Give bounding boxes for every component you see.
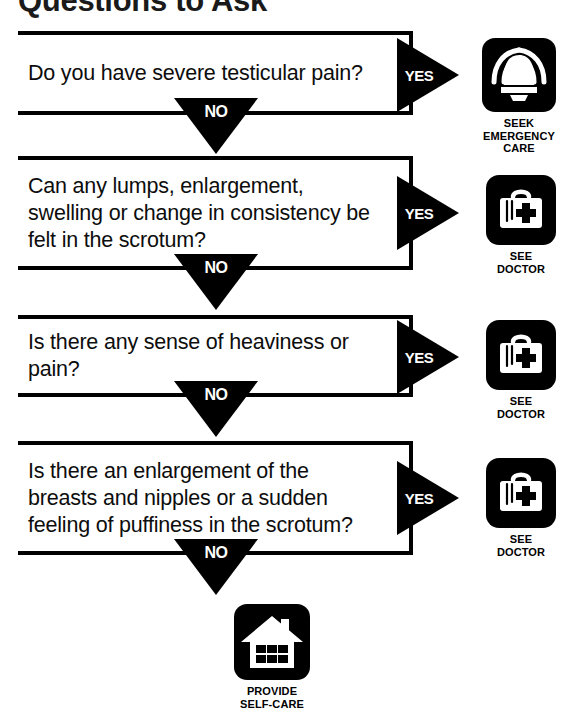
outcome-see-doctor-2[interactable]: SEE DOCTOR <box>469 320 573 420</box>
yes-label-2: YES <box>399 205 439 222</box>
no-arrow-4[interactable]: NO <box>174 539 258 595</box>
flowchart-page: Questions to Ask Do you have severe test… <box>0 0 575 719</box>
no-label-4: NO <box>174 544 258 562</box>
alarm-bell-icon <box>482 38 556 112</box>
outcome-see-doctor-3[interactable]: SEE DOCTOR <box>469 458 573 558</box>
outcome-see-doctor-1[interactable]: SEE DOCTOR <box>469 175 573 275</box>
yes-label-4: YES <box>399 490 439 507</box>
question-box-2: Can any lumps, enlargement, swelling or … <box>18 156 413 270</box>
no-label-1: NO <box>174 103 258 121</box>
no-label-3: NO <box>174 386 258 404</box>
outcome-provide-self-care[interactable]: PROVIDE SELF-CARE <box>220 604 324 710</box>
no-arrow-2[interactable]: NO <box>174 254 258 310</box>
no-arrow-3[interactable]: NO <box>174 381 258 437</box>
no-label-2: NO <box>174 259 258 277</box>
outcome-seek-emergency-care[interactable]: SEEK EMERGENCY CARE <box>467 38 571 155</box>
question-box-4: Is there an enlargement of the breasts a… <box>18 441 413 555</box>
question-text-2: Can any lumps, enlargement, swelling or … <box>28 173 375 254</box>
question-text-3: Is there any sense of heaviness or pain? <box>28 329 375 383</box>
yes-arrow-1[interactable]: YES <box>397 38 459 112</box>
doctor-bag-icon <box>486 175 556 245</box>
outcome-caption-5: PROVIDE SELF-CARE <box>220 685 324 710</box>
outcome-caption-1: SEEK EMERGENCY CARE <box>467 117 571 155</box>
question-text-1: Do you have severe testicular pain? <box>28 60 375 87</box>
doctor-bag-icon <box>486 458 556 528</box>
outcome-caption-4: SEE DOCTOR <box>469 533 573 558</box>
no-arrow-1[interactable]: NO <box>174 98 258 154</box>
outcome-caption-2: SEE DOCTOR <box>469 250 573 275</box>
yes-label-3: YES <box>399 349 439 366</box>
question-text-4: Is there an enlargement of the breasts a… <box>28 458 375 539</box>
yes-arrow-4[interactable]: YES <box>397 461 459 535</box>
yes-label-1: YES <box>399 67 439 84</box>
doctor-bag-icon <box>486 320 556 390</box>
house-icon <box>234 604 310 680</box>
yes-arrow-2[interactable]: YES <box>397 176 459 250</box>
outcome-caption-3: SEE DOCTOR <box>469 395 573 420</box>
page-title: Questions to Ask <box>18 0 267 19</box>
yes-arrow-3[interactable]: YES <box>397 320 459 394</box>
